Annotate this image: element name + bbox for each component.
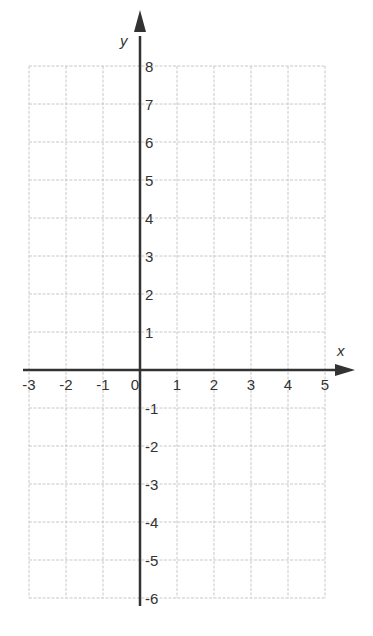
x-tick-label: -3	[22, 376, 35, 393]
x-tick-label: 3	[247, 376, 255, 393]
y-tick-label: -1	[145, 400, 158, 417]
y-tick-label: -5	[145, 552, 158, 569]
y-tick-label: -2	[145, 438, 158, 455]
y-tick-label: 7	[145, 96, 153, 113]
y-tick-label: 8	[145, 58, 153, 75]
x-axis-label: x	[336, 342, 345, 359]
y-tick-label: 4	[145, 210, 153, 227]
y-axis-label: y	[119, 32, 129, 49]
y-tick-label: -3	[145, 476, 158, 493]
y-axis-arrow-icon	[134, 10, 146, 32]
x-tick-label: 4	[284, 376, 292, 393]
x-tick-label: 5	[321, 376, 329, 393]
axes	[23, 10, 355, 606]
y-tick-label: 2	[145, 286, 153, 303]
coordinate-plane: -3-2-1012345-6-5-4-3-2-112345678 x y	[0, 0, 373, 636]
grid	[29, 66, 325, 598]
y-tick-label: 3	[145, 248, 153, 265]
y-tick-label: 6	[145, 134, 153, 151]
x-tick-label: -2	[59, 376, 72, 393]
x-tick-label: -1	[96, 376, 109, 393]
y-tick-label: 5	[145, 172, 153, 189]
x-tick-label: 2	[210, 376, 218, 393]
x-axis-arrow-icon	[335, 364, 355, 376]
y-tick-label: -6	[145, 590, 158, 607]
y-tick-label: -4	[145, 514, 158, 531]
y-tick-label: 1	[145, 324, 153, 341]
x-tick-label: 1	[173, 376, 181, 393]
x-tick-label: 0	[131, 376, 139, 393]
